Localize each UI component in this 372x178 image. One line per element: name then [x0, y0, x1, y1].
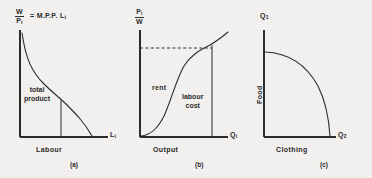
chart-c-caption: (c) [320, 161, 328, 168]
figure-panels-row: W Pi = M.P.P. Li total product Labour Li… [0, 0, 372, 178]
chart-a-y-axis-equation: = M.P.P. Li [30, 12, 66, 20]
chart-c-y-axis-symbol: Q1 [260, 12, 269, 21]
chart-b-plot [124, 0, 248, 178]
chart-a-caption: (a) [70, 161, 78, 168]
chart-a-y-numerator: W [15, 8, 24, 15]
chart-b-labour-cost-label: labour cost [182, 92, 203, 110]
chart-panel-c: Q1 Food Clothing Q2 (c) [248, 0, 372, 178]
chart-a-total-product-line2: product [24, 94, 50, 103]
chart-b-x-axis-symbol: Qi [230, 131, 237, 140]
chart-b-y-axis-fraction: Pi W [135, 8, 144, 26]
chart-c-plot [248, 0, 372, 178]
chart-c-ppf-curve [265, 52, 330, 136]
chart-a-y-axis-fraction: W Pi [15, 8, 24, 26]
chart-c-y-axis-name: Food [256, 85, 263, 104]
chart-c-x-axis-name: Clothing [276, 146, 308, 153]
chart-b-rent-label: rent [152, 84, 166, 93]
chart-a-x-axis-name: Labour [36, 146, 62, 153]
chart-a-total-product-label: total product [24, 85, 50, 103]
chart-a-total-product-line1: total [24, 85, 50, 94]
chart-b-y-numerator: Pi [135, 8, 143, 16]
chart-panel-a: W Pi = M.P.P. Li total product Labour Li… [0, 0, 124, 178]
chart-a-y-denominator: Pi [15, 17, 23, 25]
chart-b-caption: (b) [195, 161, 203, 168]
chart-a-x-axis-symbol: Li [110, 131, 116, 140]
chart-b-x-axis-name: Output [153, 146, 178, 153]
chart-b-labour-cost-line1: labour [182, 92, 203, 101]
chart-b-labour-cost-line2: cost [182, 101, 203, 110]
chart-c-x-axis-symbol: Q2 [338, 131, 347, 140]
chart-b-y-denominator: W [135, 18, 144, 25]
chart-panel-b: Pi W rent labour cost Output Qi (b) [124, 0, 248, 178]
